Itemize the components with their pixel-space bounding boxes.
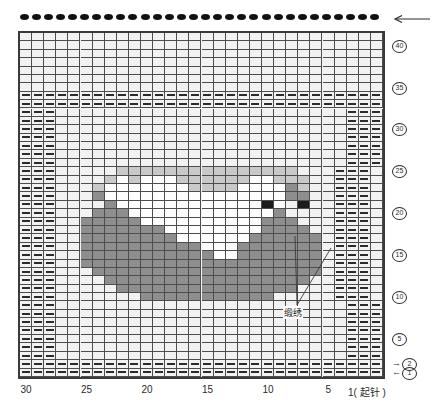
chart-cell[interactable] [202,268,214,276]
chart-cell[interactable] [117,352,129,360]
chart-cell[interactable] [359,83,371,91]
chart-cell[interactable] [81,92,93,100]
chart-cell[interactable] [214,125,226,133]
chart-cell[interactable] [262,150,274,158]
chart-cell[interactable] [202,201,214,209]
chart-cell[interactable] [32,117,44,125]
chart-cell[interactable] [250,369,262,377]
chart-cell[interactable] [141,243,153,251]
chart-cell[interactable] [141,293,153,301]
chart-cell[interactable] [117,251,129,259]
chart-cell[interactable] [153,209,165,217]
chart-cell[interactable] [347,159,359,167]
chart-cell[interactable] [250,226,262,234]
chart-cell[interactable] [335,176,347,184]
chart-cell[interactable] [286,234,298,242]
chart-cell[interactable] [347,251,359,259]
chart-cell[interactable] [20,310,32,318]
chart-cell[interactable] [262,176,274,184]
chart-cell[interactable] [105,192,117,200]
chart-cell[interactable] [153,369,165,377]
chart-cell[interactable] [298,167,310,175]
chart-cell[interactable] [105,50,117,58]
chart-cell[interactable] [335,276,347,284]
chart-cell[interactable] [44,109,56,117]
chart-cell[interactable] [56,318,68,326]
chart-cell[interactable] [32,285,44,293]
chart-cell[interactable] [81,117,93,125]
chart-cell[interactable] [56,352,68,360]
chart-cell[interactable] [250,176,262,184]
chart-cell[interactable] [371,83,383,91]
chart-cell[interactable] [44,67,56,75]
chart-cell[interactable] [117,142,129,150]
chart-cell[interactable] [335,41,347,49]
chart-cell[interactable] [359,293,371,301]
chart-cell[interactable] [177,33,189,41]
chart-cell[interactable] [371,150,383,158]
chart-cell[interactable] [56,100,68,108]
chart-cell[interactable] [274,159,286,167]
chart-cell[interactable] [81,285,93,293]
chart-cell[interactable] [274,134,286,142]
chart-cell[interactable] [310,67,322,75]
chart-cell[interactable] [274,327,286,335]
chart-cell[interactable] [262,83,274,91]
chart-cell[interactable] [298,184,310,192]
chart-cell[interactable] [347,50,359,58]
chart-cell[interactable] [189,276,201,284]
chart-cell[interactable] [141,310,153,318]
chart-cell[interactable] [129,176,141,184]
chart-cell[interactable] [226,310,238,318]
chart-cell[interactable] [323,83,335,91]
chart-cell[interactable] [117,41,129,49]
chart-cell[interactable] [20,176,32,184]
chart-cell[interactable] [347,209,359,217]
chart-cell[interactable] [262,301,274,309]
chart-cell[interactable] [359,201,371,209]
chart-cell[interactable] [250,41,262,49]
chart-cell[interactable] [153,41,165,49]
chart-cell[interactable] [202,184,214,192]
chart-cell[interactable] [68,58,80,66]
chart-cell[interactable] [359,360,371,368]
chart-cell[interactable] [226,33,238,41]
chart-cell[interactable] [20,192,32,200]
chart-cell[interactable] [44,100,56,108]
chart-cell[interactable] [44,167,56,175]
chart-cell[interactable] [335,33,347,41]
chart-cell[interactable] [56,226,68,234]
chart-cell[interactable] [214,92,226,100]
chart-cell[interactable] [20,159,32,167]
chart-cell[interactable] [117,92,129,100]
chart-cell[interactable] [250,125,262,133]
chart-cell[interactable] [286,293,298,301]
chart-cell[interactable] [323,352,335,360]
chart-cell[interactable] [359,226,371,234]
chart-cell[interactable] [262,201,274,209]
chart-cell[interactable] [81,209,93,217]
chart-cell[interactable] [226,369,238,377]
chart-cell[interactable] [105,100,117,108]
chart-cell[interactable] [347,75,359,83]
chart-cell[interactable] [359,327,371,335]
chart-cell[interactable] [93,335,105,343]
chart-cell[interactable] [56,159,68,167]
chart-cell[interactable] [117,310,129,318]
chart-cell[interactable] [153,352,165,360]
chart-cell[interactable] [81,260,93,268]
chart-cell[interactable] [141,142,153,150]
chart-cell[interactable] [347,184,359,192]
chart-cell[interactable] [117,33,129,41]
chart-cell[interactable] [298,293,310,301]
chart-cell[interactable] [129,226,141,234]
chart-cell[interactable] [93,192,105,200]
chart-cell[interactable] [262,67,274,75]
chart-cell[interactable] [56,234,68,242]
chart-cell[interactable] [359,117,371,125]
chart-cell[interactable] [371,67,383,75]
chart-cell[interactable] [226,134,238,142]
chart-cell[interactable] [347,67,359,75]
chart-cell[interactable] [20,41,32,49]
chart-cell[interactable] [32,150,44,158]
